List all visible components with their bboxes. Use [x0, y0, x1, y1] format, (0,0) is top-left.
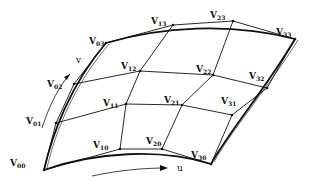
net-col-2: [162, 21, 233, 149]
vertex-label-v00: V00: [9, 158, 25, 169]
net-col-0: [44, 43, 106, 170]
net-row-1: [56, 104, 232, 123]
u-axis-label: u: [177, 163, 183, 173]
net-col-1: [120, 25, 173, 149]
vertex-point-v01: [55, 122, 58, 125]
vertex-point-v10: [119, 148, 122, 151]
v-axis-label: v: [75, 55, 82, 65]
vertex-label-v03: V03: [88, 36, 104, 47]
net-row-2: [74, 71, 267, 88]
vertex-label-v23: V23: [209, 10, 225, 21]
u-direction-arrow: [92, 165, 168, 176]
vertex-label-v01: V01: [25, 116, 41, 127]
vertex-label-v21: V21: [163, 95, 179, 106]
vertex-point-v23: [232, 20, 235, 23]
vertex-label-v30: V30: [190, 150, 206, 161]
net-row-3: [106, 21, 295, 43]
vertex-point-v22: [212, 74, 215, 77]
surface-patch-diagram: v u V00V10V20V30V01V11V21V31V02V12V22V32…: [0, 0, 313, 181]
vertex-point-v20: [161, 148, 164, 151]
vertex-label-v12: V12: [120, 61, 136, 72]
vertex-point-v31: [231, 114, 234, 117]
vertex-label-v10: V10: [92, 140, 108, 151]
vertex-label-v20: V20: [145, 136, 161, 147]
vertex-point-v03: [105, 42, 108, 45]
vertex-label-v32: V32: [248, 71, 264, 82]
vertex-point-v13: [172, 24, 175, 27]
vertex-point-v00: [43, 169, 46, 172]
vertex-layer: V00V10V20V30V01V11V21V31V02V12V22V32V03V…: [9, 10, 296, 171]
vertex-label-v02: V02: [46, 79, 62, 90]
vertex-point-v21: [181, 104, 184, 107]
vertex-point-v11: [125, 103, 128, 106]
vertex-point-v30: [210, 163, 213, 166]
boundary-v0: [44, 43, 106, 170]
vertex-label-v22: V22: [195, 64, 211, 75]
vertex-point-v02: [73, 83, 76, 86]
vertex-point-v12: [139, 70, 142, 73]
vertex-label-v33: V33: [275, 27, 291, 38]
vertex-label-v31: V31: [220, 96, 236, 107]
vertex-label-v11: V11: [102, 98, 118, 109]
net-row-0: [44, 149, 211, 170]
vertex-point-v33: [294, 38, 297, 41]
vertex-point-v32: [266, 87, 269, 90]
vertex-label-v13: V13: [150, 16, 166, 27]
